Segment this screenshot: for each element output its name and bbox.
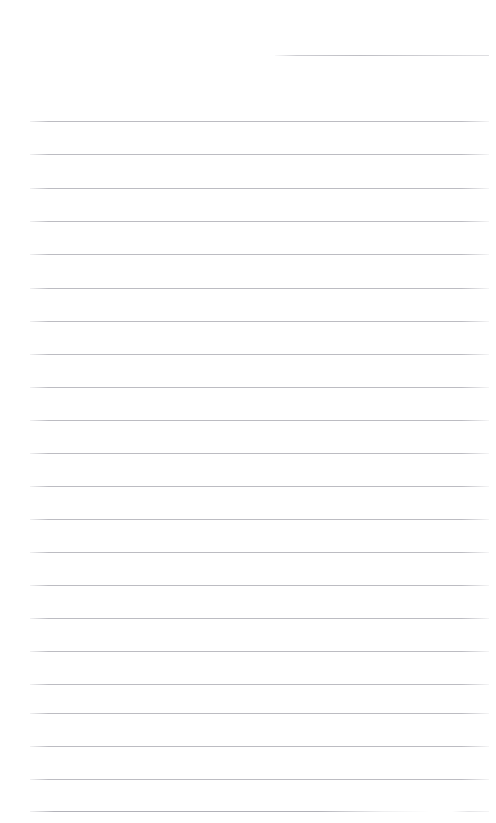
ruled-line [30,811,430,812]
ruled-line [30,713,489,714]
ruled-line [30,221,489,222]
ruled-line [30,354,489,355]
ruled-line [275,55,489,56]
document-page [0,0,496,823]
ruled-line [30,746,489,747]
ruled-line [30,779,489,780]
ruled-line [30,519,489,520]
ruled-line [30,618,489,619]
ruled-line [30,188,489,189]
ruled-line [30,420,489,421]
ruled-line [30,552,489,553]
paper-surface [0,0,496,823]
ruled-line [452,811,489,812]
ruled-line [30,453,489,454]
ruled-line [30,387,489,388]
ruled-line [30,121,489,122]
ruled-line [30,321,489,322]
ruled-line [30,585,489,586]
ruled-line [30,684,489,685]
ruled-line [30,486,489,487]
ruled-line [30,288,489,289]
ruled-line [30,154,489,155]
ruled-line [30,651,489,652]
ruled-line [30,254,489,255]
